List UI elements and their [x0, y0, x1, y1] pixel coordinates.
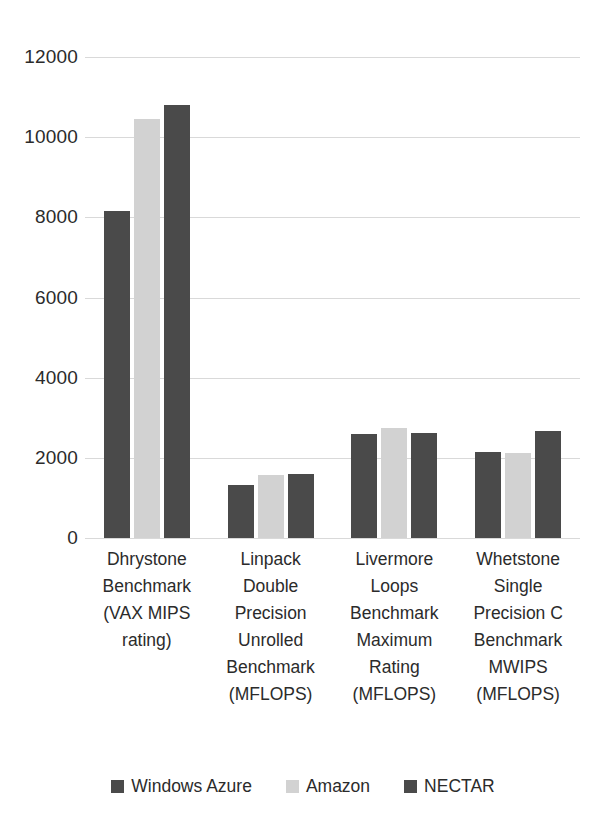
category-label-line: Unrolled — [209, 627, 333, 654]
category-label-line: Benchmark — [209, 654, 333, 681]
x-axis-category-label: WhetstoneSinglePrecision CBenchmarkMWIPS… — [456, 546, 580, 708]
bar-chart: 120001000080006000400020000 DhrystoneBen… — [0, 0, 606, 835]
legend-item[interactable]: Windows Azure — [111, 776, 252, 797]
y-axis-tick-label: 4000 — [6, 368, 78, 387]
category-label-line: Precision C — [456, 600, 580, 627]
y-axis-tick-label: 8000 — [6, 207, 78, 226]
category-label-line: (MFLOPS) — [456, 681, 580, 708]
x-axis-category-label: LivermoreLoopsBenchmarkMaximumRating(MFL… — [333, 546, 457, 708]
category-label-line: Precision — [209, 600, 333, 627]
category-label-line: (MFLOPS) — [333, 681, 457, 708]
bar — [351, 434, 377, 538]
bar — [104, 211, 130, 538]
y-axis-tick-label: 2000 — [6, 448, 78, 467]
category-label-line: Benchmark — [333, 600, 457, 627]
chart-legend: Windows AzureAmazonNECTAR — [0, 776, 606, 797]
gridline — [85, 538, 580, 539]
category-label-line: Dhrystone — [85, 546, 209, 573]
y-axis-tick-label: 0 — [6, 528, 78, 547]
y-axis-tick-label: 6000 — [6, 288, 78, 307]
category-label-line: Single — [456, 573, 580, 600]
category-label-line: Rating — [333, 654, 457, 681]
category-label-line: Benchmark — [456, 627, 580, 654]
category-label-line: (MFLOPS) — [209, 681, 333, 708]
category-label-line: Benchmark — [85, 573, 209, 600]
category-label-line: Livermore — [333, 546, 457, 573]
bar — [381, 428, 407, 538]
bar — [411, 433, 437, 538]
square-swatch-icon — [404, 780, 417, 793]
legend-item[interactable]: Amazon — [286, 776, 370, 797]
bar — [164, 105, 190, 538]
category-label-line: MWIPS — [456, 654, 580, 681]
category-label-line: Whetstone — [456, 546, 580, 573]
x-axis-category-label: LinpackDoublePrecisionUnrolledBenchmark(… — [209, 546, 333, 708]
bar — [505, 453, 531, 538]
bar — [535, 431, 561, 538]
category-label-line: Maximum — [333, 627, 457, 654]
legend-item-label: Windows Azure — [131, 776, 252, 797]
bar — [134, 119, 160, 538]
category-label-line: Double — [209, 573, 333, 600]
category-label-line: Loops — [333, 573, 457, 600]
category-label-line: (VAX MIPS — [85, 600, 209, 627]
bars-layer — [85, 57, 580, 538]
category-label-line: Linpack — [209, 546, 333, 573]
bar — [258, 475, 284, 538]
bar — [228, 485, 254, 538]
legend-item[interactable]: NECTAR — [404, 776, 495, 797]
x-axis-categories: DhrystoneBenchmark(VAX MIPSrating)Linpac… — [85, 546, 580, 736]
square-swatch-icon — [286, 780, 299, 793]
y-axis-tick-label: 10000 — [6, 127, 78, 146]
y-axis-tick-label: 12000 — [6, 47, 78, 66]
y-axis: 120001000080006000400020000 — [0, 57, 78, 538]
legend-item-label: Amazon — [306, 776, 370, 797]
x-axis-category-label: DhrystoneBenchmark(VAX MIPSrating) — [85, 546, 209, 654]
square-swatch-icon — [111, 780, 124, 793]
category-label-line: rating) — [85, 627, 209, 654]
bar — [288, 474, 314, 538]
bar — [475, 452, 501, 538]
legend-item-label: NECTAR — [424, 776, 495, 797]
